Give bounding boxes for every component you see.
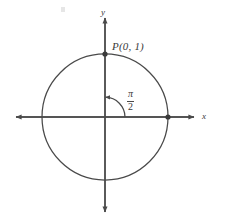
point-p-label: P(0, 1) [112,41,144,52]
point-right-marker [165,114,170,119]
x-axis-label: x [202,112,206,121]
angle-denominator: 2 [127,102,134,113]
figure-canvas: P(0, 1) π 2 x y [0,0,240,224]
angle-label-pi-over-2: π 2 [127,89,134,112]
y-axis-label: y [101,8,105,17]
angle-arc [106,97,125,117]
point-p-marker [102,51,107,56]
angle-numerator: π [127,89,134,100]
